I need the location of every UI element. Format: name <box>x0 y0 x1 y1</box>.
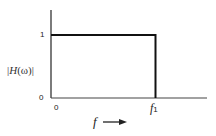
x-tick-f1-subscript: 1 <box>153 105 157 114</box>
y-label-bar-right: | <box>32 64 34 76</box>
y-tick-0: 0 <box>39 94 43 102</box>
y-tick-1: 1 <box>40 31 44 39</box>
x-axis-label-f: f <box>93 115 97 128</box>
arrow-right-icon <box>119 119 127 125</box>
y-axis-label: |H(ω)| <box>7 64 34 76</box>
x-tick-0: 0 <box>54 104 58 112</box>
y-label-omega: (ω) <box>17 64 32 76</box>
x-tick-f1: f1 <box>150 102 158 114</box>
frequency-response-diagram: 1 0 |H(ω)| 0 f1 f <box>0 0 216 136</box>
y-label-H: H <box>9 64 17 76</box>
